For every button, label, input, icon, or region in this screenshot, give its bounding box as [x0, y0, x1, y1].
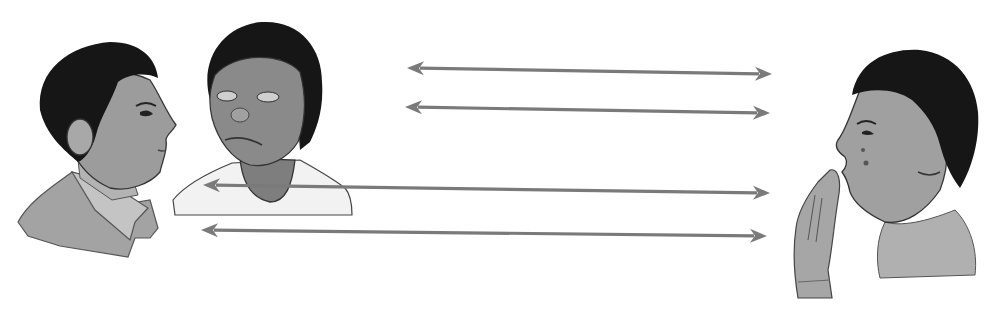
- arrow-shaft: [214, 230, 754, 236]
- boy-left-ear: [67, 119, 93, 155]
- girl-middle-eye-left: [217, 91, 237, 101]
- double-arrow-4: [201, 223, 767, 243]
- figure-boy-right: [794, 50, 978, 298]
- arrow-shaft: [418, 107, 757, 113]
- girl-middle-face: [210, 57, 304, 165]
- double-arrow-1: [407, 61, 772, 80]
- figure-boy-left: [18, 42, 176, 257]
- double-arrow-2: [405, 100, 770, 119]
- boy-right-tear-2: [864, 161, 869, 166]
- illustration-svg: [0, 0, 997, 309]
- girl-middle-nose: [231, 108, 249, 122]
- arrow-shaft: [420, 68, 759, 74]
- girl-middle-eye-right: [257, 92, 279, 102]
- boy-right-tear-1: [861, 148, 865, 152]
- illustration-canvas: [0, 0, 997, 309]
